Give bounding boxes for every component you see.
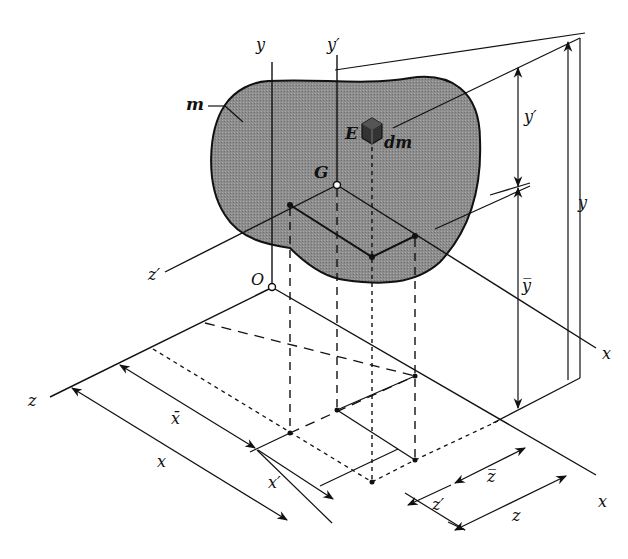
dim-z-prime-arrow	[408, 485, 451, 505]
base-plane-lines	[153, 323, 498, 482]
label-dim-x-bar: x̄	[171, 409, 180, 428]
label-y-prime-axis: y′	[326, 35, 340, 54]
label-dim-z-bar: z̅	[486, 467, 496, 486]
dim-x-arrow	[72, 388, 287, 520]
label-dim-z: z	[511, 506, 521, 525]
g-point-marker	[334, 182, 341, 189]
label-dim-y-prime: y′	[523, 107, 537, 126]
label-x-axis-upper: x	[602, 344, 611, 363]
z-axis	[50, 289, 269, 397]
label-dm: dm	[384, 133, 412, 152]
label-dim-x: x	[157, 452, 166, 471]
parallel-axis-diagram: m E dm G O y y′ z′ x x z y′ y̅ y x̄ x x′…	[0, 0, 628, 559]
label-z-prime-axis: z′	[147, 265, 160, 284]
dm-element-icon	[362, 118, 382, 144]
label-dim-y: y	[577, 193, 588, 212]
label-mass: m	[186, 94, 204, 114]
label-g: G	[314, 162, 329, 182]
dim-x-bar-arrow	[120, 365, 255, 448]
label-x-axis-lower: x	[598, 492, 607, 511]
diagram-canvas: m E dm G O y y′ z′ x x z y′ y̅ y x̄ x x′…	[0, 0, 628, 559]
label-element-point: E	[344, 123, 359, 143]
label-y-axis: y	[255, 35, 266, 54]
label-dim-x-prime: x′	[268, 473, 281, 492]
o-point-marker	[269, 284, 276, 291]
label-o: O	[251, 270, 264, 289]
rigid-body-shape	[211, 77, 480, 283]
label-dim-z-prime: z′	[431, 495, 444, 514]
label-z-axis: z	[27, 391, 37, 410]
dim-z-arrow	[455, 476, 566, 530]
label-dim-y-bar: y̅	[521, 276, 532, 295]
